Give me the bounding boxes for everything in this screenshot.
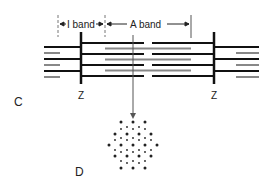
arrow-head-icon xyxy=(130,113,136,119)
sarcomere-diagram: I band A band Z Z C D xyxy=(0,0,276,181)
thick-filaments xyxy=(44,49,259,78)
panel-label-d: D xyxy=(75,165,84,179)
panel-label-c: C xyxy=(14,95,23,109)
z-label-right: Z xyxy=(211,90,217,101)
z-label-left: Z xyxy=(78,90,84,101)
a-band-label: A band xyxy=(130,19,161,30)
i-band-label: I band xyxy=(67,19,95,30)
cross-section-lattice xyxy=(108,121,159,170)
